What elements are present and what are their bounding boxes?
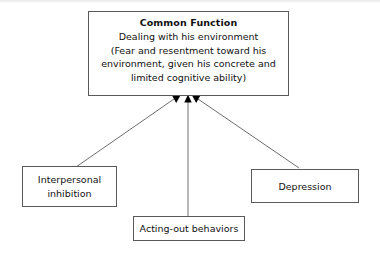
node-interpersonal-inhibition-line-2: inhibition [47, 187, 91, 201]
node-common-function-line-1: Dealing with his environment [119, 30, 259, 44]
node-common-function-line-2: (Fear and resentment toward his [111, 44, 267, 58]
node-acting-out-behaviors[interactable]: Acting-out behaviors [133, 216, 245, 241]
edge-depression-to-common [198, 99, 299, 168]
edge-interpersonal-to-common [76, 99, 174, 167]
node-common-function[interactable]: Common Function Dealing with his environ… [88, 11, 289, 96]
node-interpersonal-inhibition-line-1: Interpersonal [38, 173, 101, 187]
node-acting-out-behaviors-line-1: Acting-out behaviors [140, 222, 239, 235]
node-common-function-line-4: limited cognitive ability) [131, 71, 246, 85]
diagram-canvas: Common Function Dealing with his environ… [0, 0, 380, 256]
node-common-function-line-3: environment, given his concrete and [101, 57, 276, 71]
node-interpersonal-inhibition[interactable]: Interpersonal inhibition [22, 166, 117, 207]
node-depression[interactable]: Depression [251, 169, 359, 203]
node-common-function-heading: Common Function [140, 16, 238, 30]
node-depression-line-1: Depression [278, 180, 331, 193]
